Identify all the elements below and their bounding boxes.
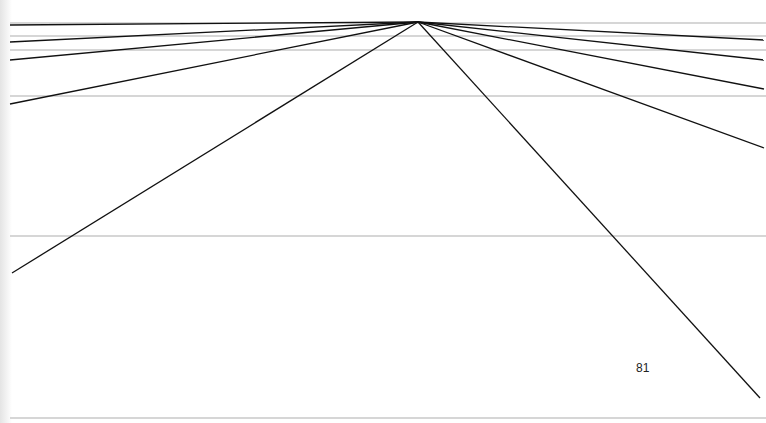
perspective-diagram (0, 0, 766, 423)
perspective-ray-left (10, 22, 418, 60)
vanishing-point (417, 21, 419, 23)
page-number: 81 (636, 361, 649, 375)
perspective-ray-right (418, 22, 764, 40)
document-page: 81 (0, 0, 766, 423)
perspective-ray-left (10, 22, 418, 104)
